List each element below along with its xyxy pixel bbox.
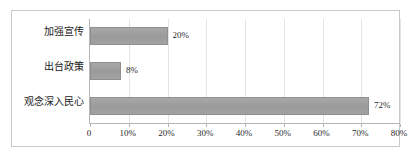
category-label-2: 观念深入民心 bbox=[24, 95, 84, 109]
bar-value-label-2: 72% bbox=[374, 98, 391, 112]
category-axis-labels: 加强宣传 出台政策 观念深入民心 bbox=[12, 19, 84, 124]
bar-value-label-0: 20% bbox=[173, 28, 190, 42]
x-tick-label-70: 70% bbox=[352, 127, 369, 140]
x-tick-label-60: 60% bbox=[313, 127, 330, 140]
bar-1[interactable] bbox=[90, 62, 121, 80]
x-axis-tick-labels: 0 10% 20% 30% 40% 50% 60% 70% 80% bbox=[89, 127, 400, 143]
plot-area: 20% 8% 72% bbox=[89, 19, 400, 124]
x-tick-label-30: 30% bbox=[197, 127, 214, 140]
chart-frame: 加强宣传 出台政策 观念深入民心 20% 8% 72% bbox=[11, 10, 400, 147]
bar-2[interactable] bbox=[90, 97, 369, 115]
x-tick-label-50: 50% bbox=[275, 127, 292, 140]
x-tick-label-40: 40% bbox=[236, 127, 253, 140]
category-label-0: 加强宣传 bbox=[44, 25, 84, 39]
x-tick-label-80: 80% bbox=[391, 127, 408, 140]
x-tick-label-10: 10% bbox=[120, 127, 137, 140]
category-label-1: 出台政策 bbox=[44, 60, 84, 74]
x-tick-label-20: 20% bbox=[158, 127, 175, 140]
bar-0[interactable] bbox=[90, 27, 168, 45]
bar-value-label-1: 8% bbox=[126, 63, 138, 77]
x-tick-label-0: 0 bbox=[87, 127, 92, 140]
gridline-80 bbox=[400, 19, 401, 123]
